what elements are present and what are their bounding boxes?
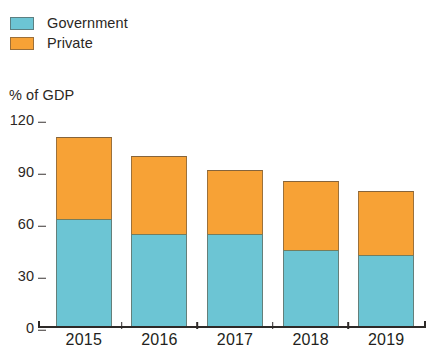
legend-item-government: Government <box>10 13 128 33</box>
y-axis-tick-60: 60 <box>18 217 46 232</box>
bar-group-2017 <box>197 120 273 328</box>
plot-area: 0306090120 <box>46 120 424 328</box>
y-axis-tick-0: 0 <box>26 321 46 336</box>
x-axis-tick-mark <box>272 322 274 329</box>
y-axis-tick-120: 120 <box>10 113 46 128</box>
bar-segment-government-2017[interactable] <box>207 234 263 328</box>
bar-segment-government-2019[interactable] <box>358 255 414 328</box>
bar-group-2016 <box>122 120 198 328</box>
legend-label-private: Private <box>47 36 93 51</box>
x-axis-line <box>38 326 426 328</box>
x-axis-label-2015: 2015 <box>46 332 122 348</box>
y-axis-tick-label: 30 <box>18 269 34 284</box>
x-axis-label-2019: 2019 <box>348 332 424 348</box>
y-axis-tick-label: 120 <box>10 113 34 128</box>
x-axis-cap-right <box>424 321 426 328</box>
stacked-bar-2018[interactable] <box>283 181 339 328</box>
bar-segment-government-2018[interactable] <box>283 250 339 328</box>
stacked-bar-2015[interactable] <box>56 137 112 328</box>
legend-item-private: Private <box>10 33 128 53</box>
x-axis-label-2016: 2016 <box>122 332 198 348</box>
y-axis-tick-90: 90 <box>18 165 46 180</box>
y-axis-tick-label: 0 <box>26 321 34 336</box>
y-axis-tick-mark <box>38 329 46 330</box>
bar-segment-private-2019[interactable] <box>358 191 414 255</box>
bar-group-2015 <box>46 120 122 328</box>
x-axis-tick-labels: 20152016201720182019 <box>46 332 424 348</box>
bar-segment-private-2017[interactable] <box>207 170 263 234</box>
y-axis-tick-mark <box>38 121 46 122</box>
y-axis-tick-mark <box>38 225 46 226</box>
bar-group-2019 <box>348 120 424 328</box>
stacked-bar-2017[interactable] <box>207 170 263 328</box>
bar-segment-private-2016[interactable] <box>131 156 187 234</box>
bar-segment-government-2016[interactable] <box>131 234 187 328</box>
x-axis-tick-mark <box>196 322 198 329</box>
stacked-bar-2019[interactable] <box>358 191 414 328</box>
y-axis-tick-mark <box>38 277 46 278</box>
bar-segment-private-2018[interactable] <box>283 181 339 250</box>
y-axis-tick-mark <box>38 173 46 174</box>
x-axis-label-2017: 2017 <box>197 332 273 348</box>
x-axis-tick-mark <box>121 322 123 329</box>
y-axis-title: % of GDP <box>9 88 74 103</box>
x-axis-label-2018: 2018 <box>273 332 349 348</box>
stacked-bar-2016[interactable] <box>131 156 187 328</box>
chart-figure: Government Private % of GDP 0306090120 2… <box>0 0 431 354</box>
legend-label-government: Government <box>47 16 128 31</box>
bar-segment-private-2015[interactable] <box>56 137 112 218</box>
x-axis-tick-mark <box>348 322 350 329</box>
legend-swatch-government <box>10 17 34 30</box>
legend-swatch-private <box>10 37 34 50</box>
bar-series-container <box>46 120 424 328</box>
y-axis-tick-label: 60 <box>18 217 34 232</box>
bar-segment-government-2015[interactable] <box>56 219 112 328</box>
chart-legend: Government Private <box>10 13 128 53</box>
y-axis-tick-label: 90 <box>18 165 34 180</box>
y-axis-tick-30: 30 <box>18 269 46 284</box>
bar-group-2018 <box>273 120 349 328</box>
